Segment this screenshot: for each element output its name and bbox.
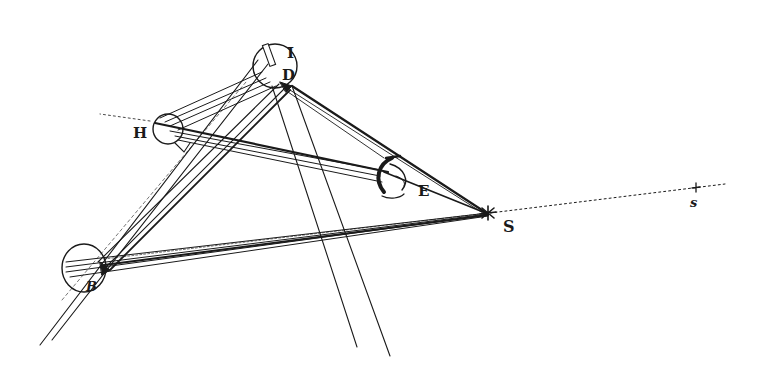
- rays-D-to-S: [288, 86, 488, 215]
- diagram-canvas: [0, 0, 758, 371]
- point-S: [480, 206, 496, 220]
- label-H: H: [133, 126, 147, 141]
- label-S: S: [503, 219, 515, 235]
- label-B: B: [86, 280, 97, 293]
- label-E: E: [418, 184, 429, 199]
- rays-B-to-S: [66, 213, 488, 277]
- label-s: s: [690, 196, 697, 209]
- point-s: [692, 183, 700, 192]
- optics-diagram: I D H E S B s: [0, 0, 758, 371]
- tube-B-to-D: [40, 60, 290, 345]
- vertical-rays-from-D: [272, 86, 390, 356]
- eye-E: [378, 156, 405, 198]
- label-D: D: [282, 68, 295, 83]
- label-I: I: [287, 46, 294, 61]
